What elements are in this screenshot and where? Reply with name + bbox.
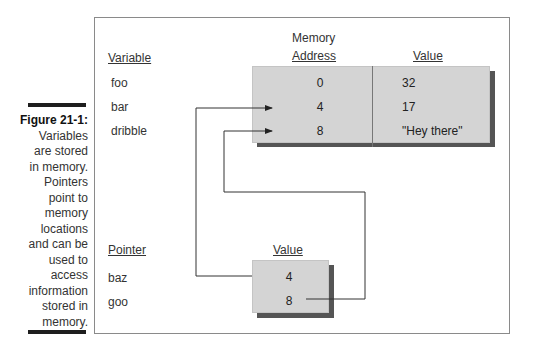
arrow-goo-to-dribble xyxy=(224,131,365,299)
pointer-arrows xyxy=(0,0,539,355)
